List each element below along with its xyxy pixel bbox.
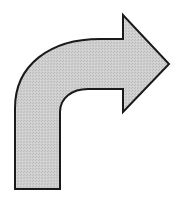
arrow-figure: Curved arrow turning right (0, 0, 179, 216)
curved-right-arrow-icon (0, 0, 179, 216)
